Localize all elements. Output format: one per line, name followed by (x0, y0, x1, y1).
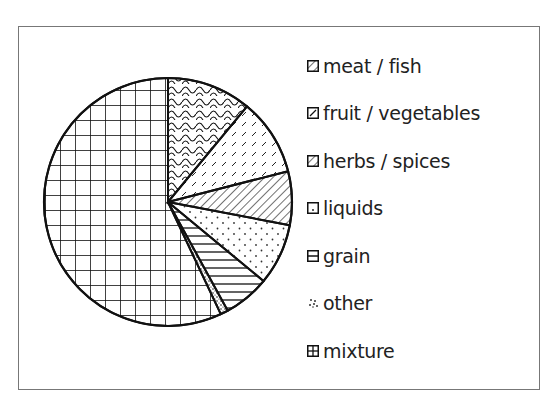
legend-label: other (323, 292, 372, 314)
pattern-swatch-grid-icon (307, 345, 319, 357)
pie-slices (44, 78, 292, 326)
legend-item-liquids: liquids (307, 185, 480, 233)
legend-item-other: other (307, 280, 480, 328)
legend-label: liquids (323, 197, 383, 219)
legend-label: mixture (323, 340, 395, 362)
legend-label: grain (323, 245, 370, 267)
pattern-swatch-dots-icon (307, 202, 319, 214)
pattern-swatch-diagonal-icon (307, 155, 319, 167)
legend-label: fruit / vegetables (323, 102, 480, 124)
legend-label: herbs / spices (323, 150, 450, 172)
pattern-swatch-speckle-icon (307, 297, 319, 309)
legend-label: meat / fish (323, 55, 421, 77)
legend-item-meat-fish: meat / fish (307, 42, 480, 90)
legend-item-herbs-spices: herbs / spices (307, 137, 480, 185)
legend: meat / fish fruit / vegetables herbs / s… (307, 42, 480, 375)
legend-item-grain: grain (307, 232, 480, 280)
pattern-swatch-scales-icon (307, 60, 319, 72)
legend-item-fruit-vegetables: fruit / vegetables (307, 90, 480, 138)
pattern-swatch-dashes-icon (307, 107, 319, 119)
legend-item-mixture: mixture (307, 327, 480, 375)
pattern-swatch-horizontal-icon (307, 250, 319, 262)
